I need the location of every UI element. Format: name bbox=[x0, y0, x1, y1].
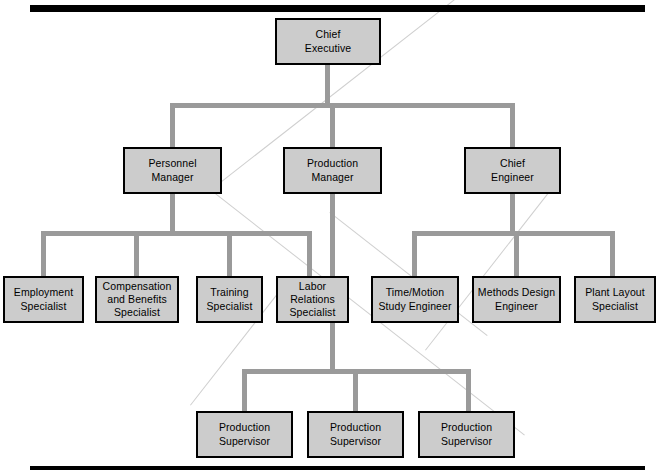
connector-to-production-supervisor-3 bbox=[466, 369, 471, 413]
connector-to-chief-engineer bbox=[510, 103, 515, 149]
connector-to-production-supervisor-2 bbox=[353, 369, 358, 413]
connector-to-employment-specialist bbox=[41, 231, 46, 278]
org-node-personnel-manager[interactable]: Personnel Manager bbox=[123, 147, 222, 194]
top-rule bbox=[30, 5, 645, 12]
org-node-production-supervisor-1[interactable]: Production Supervisor bbox=[196, 411, 293, 458]
connector-to-labor-relations-specialist bbox=[307, 231, 312, 278]
connector-to-production-supervisor-1 bbox=[242, 369, 247, 413]
org-node-label: Production Supervisor bbox=[219, 421, 270, 447]
org-node-compensation-and-benefits-specialist[interactable]: Compensation and Benefits Specialist bbox=[95, 276, 179, 323]
org-node-production-supervisor-2[interactable]: Production Supervisor bbox=[307, 411, 404, 458]
org-node-methods-design-engineer[interactable]: Methods Design Engineer bbox=[472, 276, 561, 323]
org-node-label: Production Manager bbox=[307, 157, 358, 183]
org-node-label: Training Specialist bbox=[207, 286, 253, 312]
org-node-production-manager[interactable]: Production Manager bbox=[283, 147, 382, 194]
connector-personnel-bus bbox=[41, 231, 312, 236]
org-node-label: Methods Design Engineer bbox=[478, 286, 555, 312]
connector-to-compensation-specialist bbox=[134, 231, 139, 278]
org-node-label: Labor Relations Specialist bbox=[290, 280, 336, 319]
connector-to-production-manager bbox=[330, 103, 335, 149]
org-node-label: Chief Engineer bbox=[491, 157, 534, 183]
org-node-label: Employment Specialist bbox=[14, 286, 73, 312]
org-node-label: Production Supervisor bbox=[441, 421, 492, 447]
connector-to-plant-layout-specialist bbox=[610, 231, 615, 278]
org-node-employment-specialist[interactable]: Employment Specialist bbox=[3, 276, 84, 323]
scan-artifact-diagonal-3 bbox=[425, 185, 555, 351]
org-node-time-motion-study-engineer[interactable]: Time/Motion Study Engineer bbox=[371, 276, 459, 323]
connector-ceo-bus bbox=[170, 103, 515, 108]
connector-to-training-specialist bbox=[227, 231, 232, 278]
org-node-label: Compensation and Benefits Specialist bbox=[103, 280, 172, 319]
org-node-production-supervisor-3[interactable]: Production Supervisor bbox=[418, 411, 515, 458]
connector-chief-engineer-stem bbox=[510, 194, 515, 235]
org-node-label: Chief Executive bbox=[305, 28, 351, 54]
org-node-labor-relations-specialist[interactable]: Labor Relations Specialist bbox=[276, 276, 349, 323]
org-node-plant-layout-specialist[interactable]: Plant Layout Specialist bbox=[574, 276, 656, 323]
bottom-rule bbox=[30, 466, 645, 470]
org-node-label: Plant Layout Specialist bbox=[585, 286, 645, 312]
connector-to-time-motion-engineer bbox=[412, 231, 417, 278]
org-node-chief-engineer[interactable]: Chief Engineer bbox=[464, 147, 561, 194]
org-node-chief-executive[interactable]: Chief Executive bbox=[275, 18, 381, 65]
org-chart-canvas: Chief Executive Personnel Manager Produc… bbox=[0, 0, 659, 476]
connector-to-personnel-manager bbox=[170, 103, 175, 149]
connector-to-methods-design-engineer bbox=[514, 231, 519, 278]
org-node-label: Personnel Manager bbox=[148, 157, 196, 183]
org-node-label: Production Supervisor bbox=[330, 421, 381, 447]
connector-ceo-stem bbox=[325, 65, 330, 107]
connector-personnel-stem bbox=[170, 194, 175, 235]
org-node-label: Time/Motion Study Engineer bbox=[378, 286, 451, 312]
org-node-training-specialist[interactable]: Training Specialist bbox=[196, 276, 263, 323]
